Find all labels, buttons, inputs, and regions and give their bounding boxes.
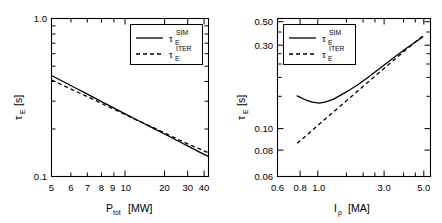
figure-root: 1.0 0.1 5 6 7 8 9 10 20 30 40 P tot [MW]…	[0, 0, 442, 223]
x-axis-title-sub: p	[338, 209, 342, 217]
y-axis-title-left: τ E [s]	[12, 95, 26, 120]
y-axis-title-sub: E	[19, 109, 26, 114]
legend-label-iter-sup: ITER	[329, 45, 345, 52]
x-axis-title-unit: [MW]	[128, 202, 153, 214]
x-tick-label: 20	[159, 182, 170, 193]
legend-label-sim-sup: SIM	[176, 29, 188, 36]
legend-box	[284, 25, 356, 65]
x-axis-title-sub: tot	[113, 209, 121, 216]
x-axis-title-base: I	[334, 202, 337, 214]
chart-svg-left: 1.0 0.1 5 6 7 8 9 10 20 30 40 P tot [MW]…	[0, 0, 221, 223]
y-tick-label: 0.1	[34, 171, 47, 182]
x-tick-label: 7	[85, 182, 90, 193]
y-tick-label: 0.30	[255, 40, 274, 51]
y-axis-title-base: τ	[235, 115, 247, 120]
y-axis-title-base: τ	[12, 115, 24, 120]
chart-svg-right: 0.50 0.30 0.10 0.08 0.06 0.6 0.8 1.0 3.0…	[221, 0, 442, 223]
x-axis-title-left: P tot [MW]	[106, 202, 153, 216]
legend-label-iter-base: τ	[169, 49, 173, 60]
y-tick-label: 0.50	[255, 16, 274, 27]
legend-label-sim-sup: SIM	[329, 29, 341, 36]
x-tick-label: 0.6	[271, 182, 284, 193]
x-axis-title-base: P	[106, 202, 113, 214]
chart-panel-left: 1.0 0.1 5 6 7 8 9 10 20 30 40 P tot [MW]…	[0, 0, 221, 223]
x-tick-label: 40	[199, 182, 210, 193]
legend-box	[131, 25, 203, 65]
x-tick-label: 30	[182, 182, 193, 193]
curve-sim-left	[52, 75, 209, 156]
curve-iter-left	[52, 80, 209, 153]
y-tick-label: 0.08	[255, 145, 274, 156]
legend-label-iter-sub: E	[175, 55, 180, 62]
legend-right: τ E SIM τ E ITER	[284, 25, 356, 65]
y-tick-label: 1.0	[34, 13, 47, 24]
x-axis-title-unit: [MA]	[348, 202, 370, 214]
y-axis-title-unit: [s]	[235, 95, 247, 106]
legend-label-sim-base: τ	[322, 33, 326, 44]
legend-label-iter-base: τ	[322, 49, 326, 60]
x-tick-label: 8	[99, 182, 104, 193]
x-tick-label: 5.0	[417, 182, 430, 193]
y-axis-title-unit: [s]	[12, 95, 24, 106]
y-axis-title-sub: E	[242, 109, 249, 114]
x-tick-label: 9	[110, 182, 115, 193]
chart-panel-right: 0.50 0.30 0.10 0.08 0.06 0.6 0.8 1.0 3.0…	[221, 0, 442, 223]
y-axis-title-right: τ E [s]	[235, 95, 249, 120]
legend-label-iter-sub: E	[328, 55, 333, 62]
y-tick-label: 0.06	[255, 171, 274, 182]
legend-label-iter-sup: ITER	[176, 45, 192, 52]
y-tick-label: 0.10	[255, 123, 274, 134]
x-tick-label: 3.0	[377, 182, 390, 193]
legend-label-sim-base: τ	[169, 33, 173, 44]
x-tick-label: 10	[121, 182, 132, 193]
x-tick-label: 5	[49, 182, 54, 193]
x-tick-label: 6	[68, 182, 73, 193]
x-tick-label: 0.8	[293, 182, 306, 193]
legend-left: τ E SIM τ E ITER	[131, 25, 203, 65]
x-axis-title-right: I p [MA]	[334, 202, 370, 217]
x-tick-label: 1.0	[312, 182, 325, 193]
